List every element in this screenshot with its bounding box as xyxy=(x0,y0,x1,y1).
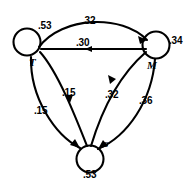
label-edge-m-to-t: .30 xyxy=(76,38,89,48)
label-edge-t-to-m: .32 xyxy=(82,16,95,26)
edge-t-to-s-inner xyxy=(40,52,87,146)
label-edge-m-to-s-outer: .36 xyxy=(139,96,152,106)
self-loop-m xyxy=(143,32,170,59)
graph-canvas xyxy=(0,0,195,187)
node-label-m: M xyxy=(147,60,157,71)
label-self-loop-m: .34 xyxy=(169,36,182,46)
state-transition-diagram: .53 .34 .53 .32 .30 .15 .15 .32 .36 T M … xyxy=(0,0,195,187)
label-edge-t-to-s-inner: .15 xyxy=(62,88,75,98)
label-self-loop-s: .53 xyxy=(83,170,96,180)
node-label-t: T xyxy=(29,57,36,68)
arrowhead-t-to-s-outer xyxy=(70,139,80,148)
label-edge-s-to-m-inner: .32 xyxy=(105,90,118,100)
edge-t-to-s-outer xyxy=(31,57,80,148)
node-label-s: s xyxy=(104,138,108,149)
self-loop-t xyxy=(14,29,41,56)
label-self-loop-t: .53 xyxy=(38,21,51,31)
edge-s-to-m-inner xyxy=(91,52,146,146)
arrowhead-s-to-m-inner xyxy=(108,75,116,84)
label-edge-t-to-s-outer: .15 xyxy=(34,106,47,116)
